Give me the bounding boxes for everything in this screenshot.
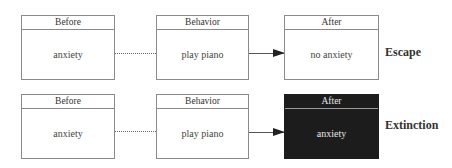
extinction-label: Extinction (385, 118, 438, 133)
box-content: play piano (157, 30, 248, 79)
escape-before-box: Before anxiety (21, 15, 115, 80)
box-content: anxiety (22, 30, 114, 79)
box-content: anxiety (285, 109, 378, 158)
box-header: After (285, 95, 378, 109)
dotted-connector (115, 131, 156, 132)
escape-label: Escape (385, 45, 421, 60)
box-header: Behavior (157, 16, 248, 30)
box-content: anxiety (22, 109, 114, 158)
box-header: Before (22, 95, 114, 109)
box-header: After (285, 16, 378, 30)
box-header: Before (22, 16, 114, 30)
arrow-connector (249, 132, 284, 133)
extinction-behavior-box: Behavior play piano (156, 94, 249, 159)
box-header: Behavior (157, 95, 248, 109)
extinction-after-box: After anxiety (284, 94, 379, 159)
dotted-connector (115, 53, 156, 54)
box-content: play piano (157, 109, 248, 158)
box-content: no anxiety (285, 30, 378, 79)
extinction-before-box: Before anxiety (21, 94, 115, 159)
escape-after-box: After no anxiety (284, 15, 379, 80)
escape-behavior-box: Behavior play piano (156, 15, 249, 80)
arrow-connector (249, 53, 284, 54)
